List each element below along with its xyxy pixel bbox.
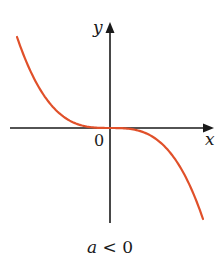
cubic-graph: y x 0 a < 0 [0,0,221,260]
caption: a < 0 [87,237,133,257]
caption-relation: < 0 [97,237,133,257]
y-axis-label: y [92,17,103,37]
caption-variable: a [87,237,97,257]
origin-label: 0 [94,131,104,150]
x-axis-label: x [205,129,215,149]
y-axis-arrow-icon [106,22,115,33]
